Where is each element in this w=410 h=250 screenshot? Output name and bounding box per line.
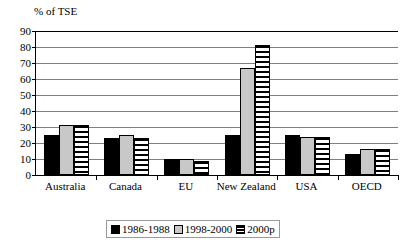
y-axis-tick-label: 70 xyxy=(20,58,31,69)
bar xyxy=(44,135,59,175)
y-axis-tick-mark xyxy=(32,63,36,64)
bar xyxy=(134,138,149,175)
x-axis-category-label: New Zealand xyxy=(216,180,276,193)
legend-swatch-icon xyxy=(174,225,183,234)
bar xyxy=(59,125,74,175)
y-axis-tick-mark xyxy=(32,127,36,128)
y-axis-tick-label: 80 xyxy=(20,42,31,53)
bar-group xyxy=(36,31,96,175)
x-axis-category-label: EU xyxy=(156,180,216,193)
legend-swatch-icon xyxy=(236,225,245,234)
bar xyxy=(225,135,240,175)
legend-label: 1986-1988 xyxy=(122,223,170,235)
plot-area: 0102030405060708090 xyxy=(35,31,398,176)
bar xyxy=(240,68,255,175)
y-axis-tick-mark xyxy=(32,47,36,48)
y-axis-tick-label: 10 xyxy=(20,154,31,165)
bar xyxy=(315,137,330,175)
bar-group xyxy=(96,31,156,175)
y-axis-tick-mark xyxy=(32,79,36,80)
legend-entry: 2000p xyxy=(236,223,275,235)
legend-swatch-icon xyxy=(111,225,120,234)
bar-group xyxy=(157,31,217,175)
bar xyxy=(104,138,119,175)
bar xyxy=(360,149,375,175)
y-axis-tick-label: 40 xyxy=(20,106,31,117)
x-axis-category-label: Australia xyxy=(35,180,95,193)
y-axis-tick-mark xyxy=(32,175,36,176)
legend-entry: 1998-2000 xyxy=(174,223,233,235)
bar xyxy=(164,159,179,175)
bar xyxy=(179,159,194,175)
y-axis-tick-label: 30 xyxy=(20,122,31,133)
y-axis-tick-mark xyxy=(32,159,36,160)
bar-group xyxy=(277,31,337,175)
bar xyxy=(255,45,270,175)
y-axis-tick-label: 50 xyxy=(20,90,31,101)
y-axis-tick-mark xyxy=(32,31,36,32)
legend-label: 2000p xyxy=(247,223,275,235)
chart-legend: 1986-19881998-20002000p xyxy=(106,220,280,238)
bars-layer xyxy=(36,31,398,175)
bar-group xyxy=(217,31,277,175)
y-axis-tick-mark xyxy=(32,143,36,144)
bar xyxy=(285,135,300,175)
y-axis-tick-label: 20 xyxy=(20,138,31,149)
y-axis-tick-mark xyxy=(32,95,36,96)
x-axis-category-label: OECD xyxy=(337,180,397,193)
bar xyxy=(194,161,209,175)
legend-entry: 1986-1988 xyxy=(111,223,170,235)
x-axis-category-label: USA xyxy=(276,180,336,193)
bar xyxy=(119,135,134,175)
legend-label: 1998-2000 xyxy=(185,223,233,235)
bar xyxy=(375,149,390,175)
x-axis-tick-mark xyxy=(398,175,399,180)
bar xyxy=(345,154,360,175)
x-axis-category-labels: AustraliaCanadaEUNew ZealandUSAOECD xyxy=(35,180,397,214)
y-axis-title: % of TSE xyxy=(34,5,77,18)
y-axis-tick-label: 90 xyxy=(20,26,31,37)
y-axis-tick-label: 60 xyxy=(20,74,31,85)
y-axis-tick-label: 0 xyxy=(26,170,32,181)
bar-group xyxy=(338,31,398,175)
x-axis-category-label: Canada xyxy=(95,180,155,193)
y-axis-tick-mark xyxy=(32,111,36,112)
bar-chart: % of TSE 0102030405060708090 AustraliaCa… xyxy=(0,0,410,250)
bar xyxy=(300,137,315,175)
bar xyxy=(74,125,89,175)
